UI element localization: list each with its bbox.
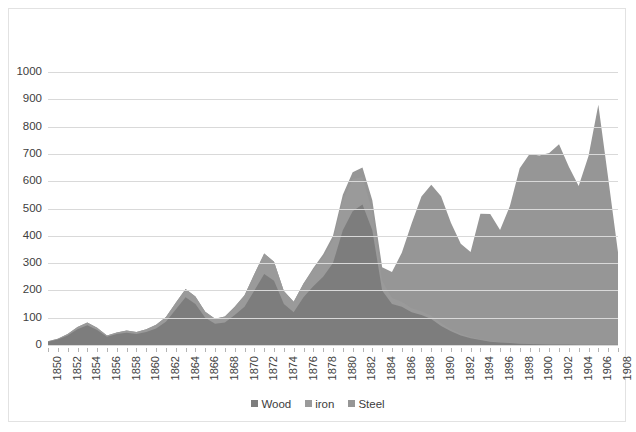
x-axis-tick-mark — [510, 348, 511, 352]
x-axis-tick-mark — [284, 348, 285, 352]
x-axis-tick-label: 1850 — [52, 356, 63, 380]
x-axis-tick-mark — [500, 348, 501, 352]
x-axis-tick-mark — [451, 348, 452, 352]
x-axis-tick-label: 1854 — [91, 356, 102, 380]
x-axis-tick-mark — [68, 348, 69, 352]
legend-swatch-icon — [305, 400, 312, 407]
x-axis-tick-mark — [618, 348, 619, 352]
x-axis-tick-mark — [461, 348, 462, 352]
x-axis-tick-mark — [353, 348, 354, 352]
x-axis-tick-label: 1890 — [445, 356, 456, 380]
x-axis-tick-mark — [392, 348, 393, 352]
x-axis: 1850185218541856185818601862186418661868… — [48, 348, 618, 394]
x-axis-tick-mark — [146, 348, 147, 352]
y-axis-tick-label: 600 — [0, 175, 42, 186]
x-axis-tick-label: 1858 — [131, 356, 142, 380]
x-axis-tick-mark — [490, 348, 491, 352]
x-axis-tick-label: 1898 — [524, 356, 535, 380]
legend-swatch-icon — [251, 400, 258, 407]
x-axis-tick-mark — [225, 348, 226, 352]
x-axis-tick-label: 1862 — [170, 356, 181, 380]
y-axis-tick-label: 700 — [0, 148, 42, 159]
x-axis-tick-mark — [412, 348, 413, 352]
gridline — [48, 290, 618, 291]
x-axis-tick-mark — [136, 348, 137, 352]
x-axis-tick-mark — [539, 348, 540, 352]
x-axis-tick-label: 1866 — [209, 356, 220, 380]
x-axis-tick-mark — [186, 348, 187, 352]
x-axis-tick-mark — [323, 348, 324, 352]
x-axis-tick-mark — [107, 348, 108, 352]
y-axis-tick-label: 200 — [0, 284, 42, 295]
y-axis-tick-label: 400 — [0, 230, 42, 241]
legend-label: Wood — [261, 398, 291, 410]
y-axis-tick-label: 100 — [0, 312, 42, 323]
legend-label: Steel — [358, 398, 384, 410]
x-axis-tick-mark — [117, 348, 118, 352]
x-axis-tick-mark — [333, 348, 334, 352]
x-axis-tick-label: 1872 — [268, 356, 279, 380]
x-axis-tick-mark — [235, 348, 236, 352]
x-axis-tick-mark — [205, 348, 206, 352]
gridline — [48, 236, 618, 237]
x-axis-tick-mark — [48, 348, 49, 352]
x-axis-tick-mark — [441, 348, 442, 352]
legend-swatch-icon — [348, 400, 355, 407]
x-axis-tick-mark — [127, 348, 128, 352]
x-axis-tick-mark — [78, 348, 79, 352]
x-axis-tick-mark — [215, 348, 216, 352]
x-axis-tick-mark — [382, 348, 383, 352]
x-axis-tick-label: 1864 — [190, 356, 201, 380]
x-axis-tick-label: 1888 — [425, 356, 436, 380]
gridline — [48, 318, 618, 319]
x-axis-tick-label: 1896 — [504, 356, 515, 380]
x-axis-tick-mark — [549, 348, 550, 352]
x-axis-tick-label: 1902 — [563, 356, 574, 380]
x-axis-tick-mark — [598, 348, 599, 352]
x-axis-tick-mark — [402, 348, 403, 352]
x-axis-tick-label: 1868 — [229, 356, 240, 380]
x-axis-tick-mark — [304, 348, 305, 352]
x-axis-tick-mark — [97, 348, 98, 352]
x-axis-tick-label: 1892 — [465, 356, 476, 380]
x-axis-tick-label: 1884 — [386, 356, 397, 380]
x-axis-tick-mark — [294, 348, 295, 352]
x-axis-tick-mark — [58, 348, 59, 352]
x-axis-tick-mark — [343, 348, 344, 352]
y-axis: 01002003004005006007008009001000 — [0, 0, 42, 432]
gridline — [48, 209, 618, 210]
x-axis-tick-mark — [589, 348, 590, 352]
x-axis-tick-mark — [579, 348, 580, 352]
y-axis-tick-label: 500 — [0, 203, 42, 214]
x-axis-tick-label: 1852 — [72, 356, 83, 380]
x-axis-tick-label: 1880 — [347, 356, 358, 380]
x-axis-tick-mark — [363, 348, 364, 352]
x-axis-tick-mark — [608, 348, 609, 352]
x-axis-tick-mark — [264, 348, 265, 352]
x-axis-tick-mark — [254, 348, 255, 352]
x-axis-tick-mark — [274, 348, 275, 352]
y-axis-tick-label: 300 — [0, 257, 42, 268]
x-axis-tick-mark — [559, 348, 560, 352]
x-axis-tick-label: 1900 — [543, 356, 554, 380]
chart-legend: WoodironSteel — [0, 398, 636, 411]
gridline — [48, 263, 618, 264]
y-axis-tick-label: 900 — [0, 93, 42, 104]
legend-item[interactable]: iron — [305, 398, 334, 411]
x-axis-tick-label: 1878 — [327, 356, 338, 380]
legend-item[interactable]: Steel — [348, 398, 384, 411]
x-axis-tick-label: 1876 — [308, 356, 319, 380]
x-axis-tick-label: 1856 — [111, 356, 122, 380]
x-axis-tick-label: 1874 — [288, 356, 299, 380]
x-axis-tick-label: 1886 — [406, 356, 417, 380]
legend-item[interactable]: Wood — [251, 398, 291, 411]
x-axis-tick-mark — [245, 348, 246, 352]
x-axis-tick-label: 1860 — [150, 356, 161, 380]
gridline — [48, 154, 618, 155]
x-axis-tick-label: 1882 — [366, 356, 377, 380]
x-axis-tick-label: 1870 — [249, 356, 260, 380]
x-axis-tick-mark — [195, 348, 196, 352]
x-axis-tick-mark — [431, 348, 432, 352]
x-axis-tick-mark — [313, 348, 314, 352]
gridline — [48, 181, 618, 182]
